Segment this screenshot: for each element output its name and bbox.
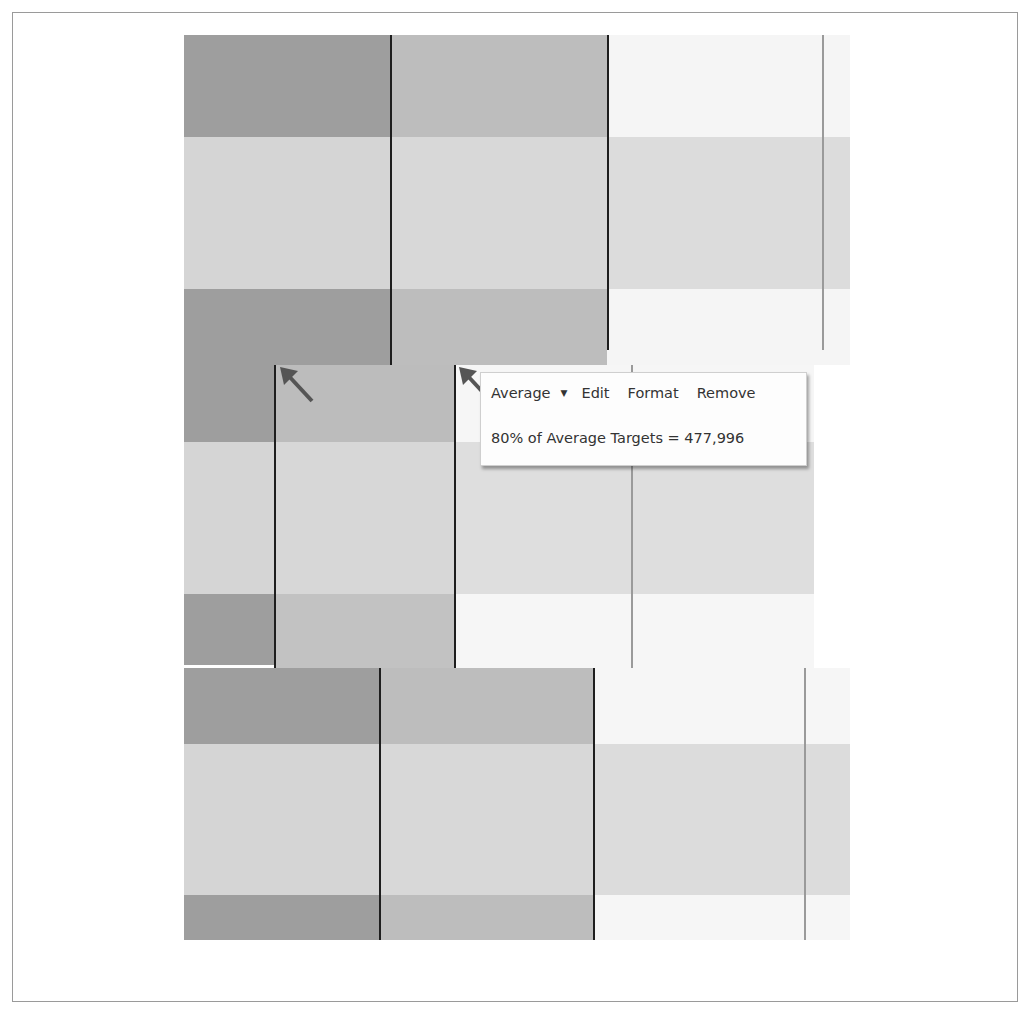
reference-line-value: 80% of Average Targets = 477,996 xyxy=(491,430,744,446)
bar-column-1 xyxy=(184,35,390,365)
callout-arrow-icon xyxy=(278,365,318,405)
remove-button[interactable]: Remove xyxy=(697,385,756,401)
bar-column-3 xyxy=(609,35,850,365)
reference-line-tooltip: Average▼EditFormatRemove 80% of Average … xyxy=(480,372,807,466)
format-button[interactable]: Format xyxy=(628,385,679,401)
bar-column-3 xyxy=(595,668,850,940)
aggregation-dropdown[interactable]: Average xyxy=(491,385,551,401)
reference-line[interactable] xyxy=(822,35,824,365)
tooltip-menu: Average▼EditFormatRemove xyxy=(491,385,774,401)
edit-button[interactable]: Edit xyxy=(581,385,609,401)
chart-strip-middle-bg xyxy=(184,365,274,665)
bar-column-2 xyxy=(392,35,607,365)
bar-column-2 xyxy=(276,365,454,668)
reference-line[interactable] xyxy=(804,668,806,940)
chevron-down-icon[interactable]: ▼ xyxy=(561,388,568,398)
chart-strip-middle-bg-right xyxy=(274,350,850,365)
chart-strip-top xyxy=(184,35,850,365)
bar-column-2 xyxy=(381,668,593,940)
chart-strip-bottom xyxy=(184,668,850,940)
bar-column-1 xyxy=(184,668,379,940)
